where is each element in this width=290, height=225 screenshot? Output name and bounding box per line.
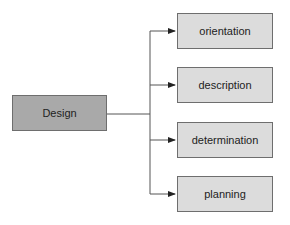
node-determination: determination bbox=[177, 122, 273, 158]
node-label: planning bbox=[204, 188, 246, 200]
node-planning: planning bbox=[177, 176, 273, 212]
node-label: description bbox=[198, 79, 251, 91]
node-description: description bbox=[177, 67, 273, 103]
node-label: determination bbox=[192, 134, 259, 146]
node-label: orientation bbox=[199, 25, 250, 37]
node-design: Design bbox=[12, 95, 107, 131]
node-label: Design bbox=[42, 107, 76, 119]
node-orientation: orientation bbox=[177, 13, 273, 49]
